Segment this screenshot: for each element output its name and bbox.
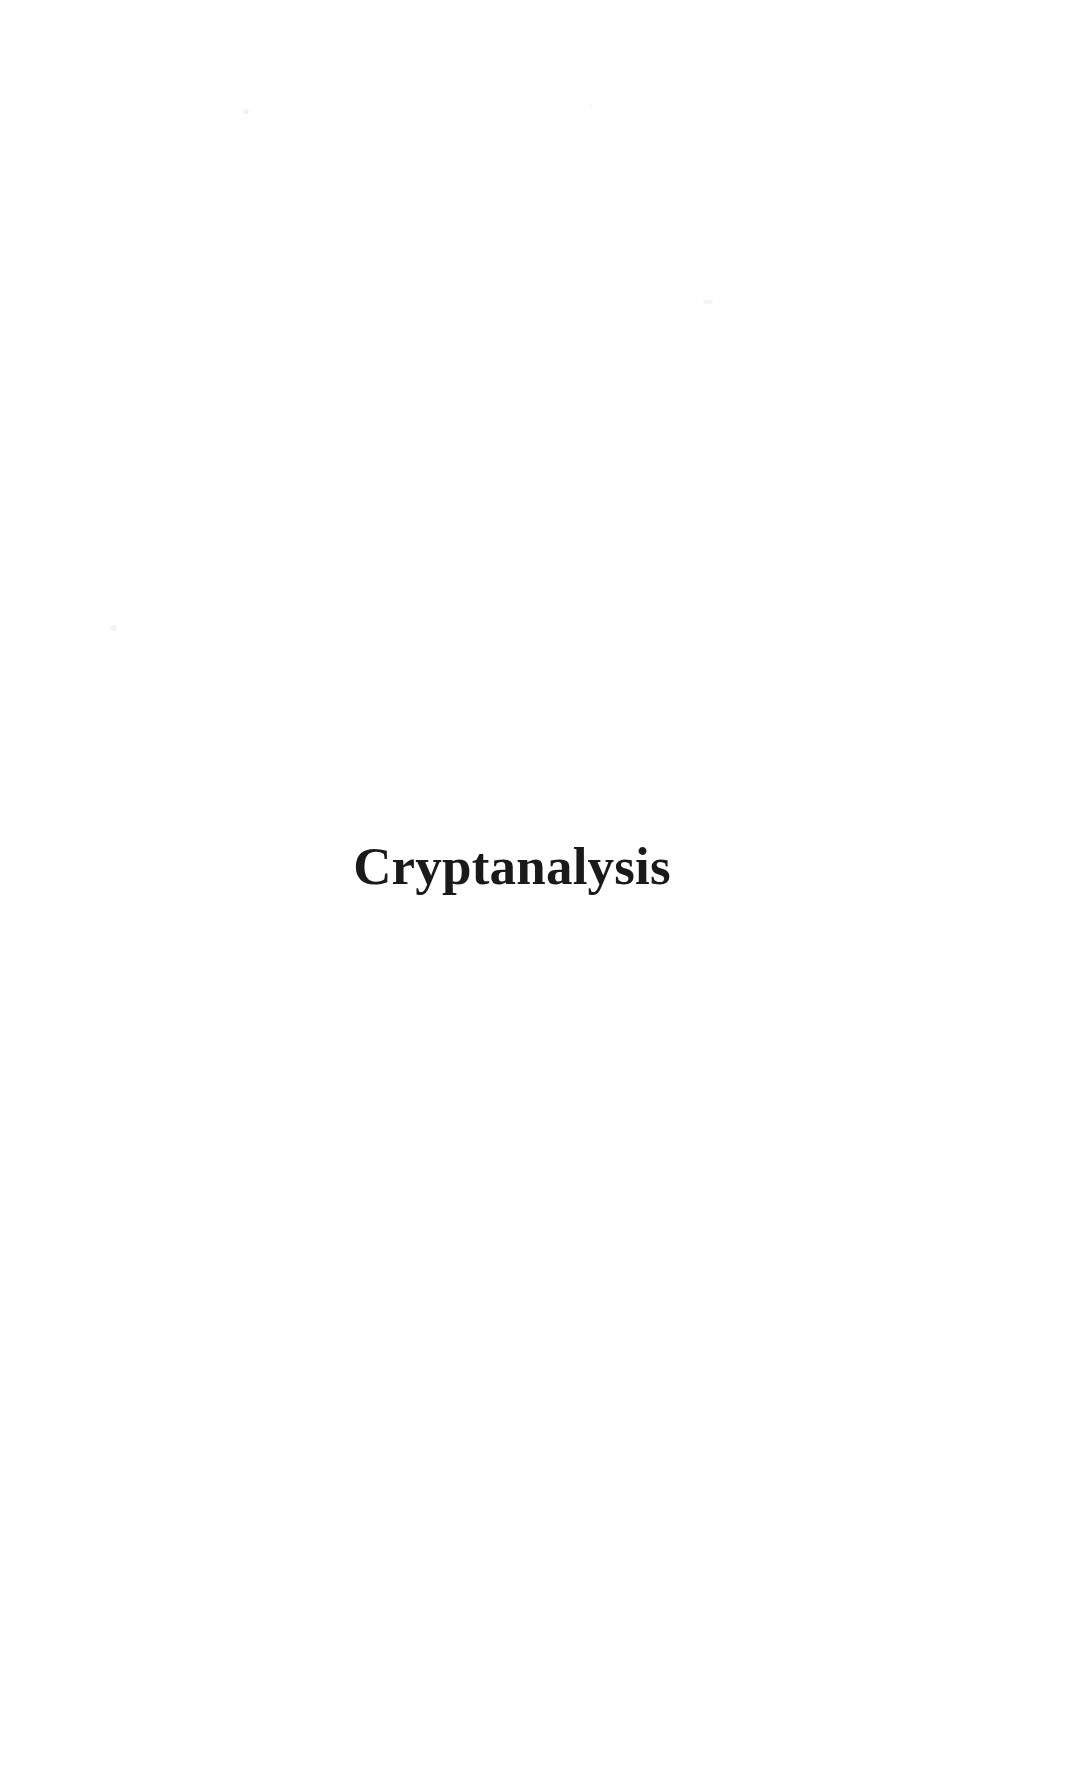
page-title: Cryptanalysis — [353, 840, 671, 908]
document-page: Cryptanalysis — [0, 0, 1066, 1767]
part-title-block: Cryptanalysis — [0, 0, 1024, 908]
